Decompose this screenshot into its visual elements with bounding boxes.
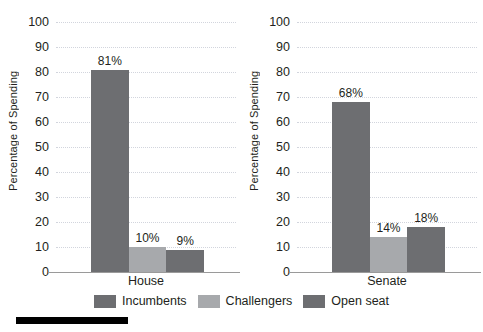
y-tick-label-100: 100 [28,15,49,29]
bar-open-seat-house[interactable] [166,250,204,273]
bar-slot-challengers-house: 10% [129,22,167,272]
legend-swatch-challengers [198,295,220,308]
y-tick-label-10: 10 [276,240,290,254]
bar-slot-open-seat-senate: 18% [407,22,445,272]
bar-slot-challengers-senate: 14% [370,22,408,272]
y-tick-label-70: 70 [35,90,49,104]
y-tick-label-80: 80 [35,65,49,79]
chart-legend: Incumbents Challengers Open seat [0,291,483,311]
legend-swatch-open-seat [303,295,325,308]
plot-area-senate: 1009080706050403020100 68% 14% 18% [297,22,477,272]
x-axis-label-house: House [56,274,236,288]
y-tick-label-70: 70 [276,90,290,104]
bar-value-label-challengers-senate: 14% [376,221,400,235]
bar-value-label-open-seat-house: 9% [177,234,194,248]
chart-panel-house: Percentage of Spending 10090807060504030… [0,0,242,292]
y-tick-label-90: 90 [276,40,290,54]
bar-slot-incumbents-house: 81% [91,22,129,272]
y-tick-label-80: 80 [276,65,290,79]
bar-value-label-incumbents-house: 81% [98,54,122,68]
legend-label-open-seat: Open seat [331,294,389,308]
y-tick-label-20: 20 [276,215,290,229]
chart-panel-senate: Percentage of Spending 10090807060504030… [241,0,483,292]
x-axis-label-senate: Senate [297,274,477,288]
y-tick-label-60: 60 [276,115,290,129]
y-tick-label-40: 40 [35,165,49,179]
y-tick-label-50: 50 [276,140,290,154]
y-tick-label-30: 30 [276,190,290,204]
bar-challengers-senate[interactable] [370,237,408,272]
bar-value-label-incumbents-senate: 68% [339,86,363,100]
legend-label-incumbents: Incumbents [122,294,187,308]
y-tick-label-10: 10 [35,240,49,254]
y-tick-label-50: 50 [35,140,49,154]
x-axis-line-house [48,272,240,273]
bar-value-label-challengers-house: 10% [135,231,159,245]
legend-item-incumbents[interactable]: Incumbents [94,294,187,308]
bar-incumbents-senate[interactable] [332,102,370,272]
legend-item-challengers[interactable]: Challengers [198,294,293,308]
bar-open-seat-senate[interactable] [407,227,445,272]
bar-group-house: 81% 10% 9% [91,22,204,272]
y-tick-label-40: 40 [276,165,290,179]
y-tick-label-30: 30 [35,190,49,204]
legend-item-open-seat[interactable]: Open seat [303,294,389,308]
bar-value-label-open-seat-senate: 18% [414,211,438,225]
bottom-rule [16,317,128,324]
bar-group-senate: 68% 14% 18% [332,22,445,272]
y-axis-title-senate: Percentage of Spending [246,0,262,262]
bar-slot-incumbents-senate: 68% [332,22,370,272]
chart-figure: Percentage of Spending 10090807060504030… [0,0,483,332]
legend-swatch-incumbents [94,295,116,308]
y-tick-label-60: 60 [35,115,49,129]
bar-incumbents-house[interactable] [91,70,129,273]
y-axis-title-house: Percentage of Spending [5,0,21,262]
y-tick-label-90: 90 [35,40,49,54]
x-axis-line-senate [289,272,481,273]
y-tick-label-20: 20 [35,215,49,229]
plot-area-house: 1009080706050403020100 81% 10% 9% [56,22,236,272]
legend-label-challengers: Challengers [226,294,293,308]
y-tick-label-100: 100 [269,15,290,29]
bar-slot-open-seat-house: 9% [166,22,204,272]
bar-challengers-house[interactable] [129,247,167,272]
